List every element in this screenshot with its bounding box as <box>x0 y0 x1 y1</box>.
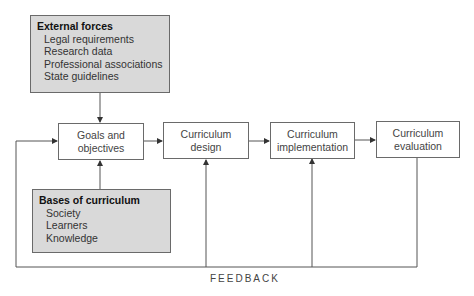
goals-and-objectives-box: Goals and objectives <box>58 123 144 160</box>
bases-item: Knowledge <box>39 232 164 245</box>
stage-label-line2: evaluation <box>394 140 442 152</box>
bases-item: Society <box>39 207 164 220</box>
bases-item: Learners <box>39 219 164 232</box>
curriculum-implementation-box: Curriculum implementation <box>270 122 355 159</box>
stage-label-line1: Goals and <box>77 129 125 141</box>
stage-label-line1: Curriculum <box>393 127 444 139</box>
stage-label-line2: objectives <box>78 142 125 154</box>
external-forces-box: External forces Legal requirements Resea… <box>30 15 170 93</box>
curriculum-design-box: Curriculum design <box>163 122 249 159</box>
curriculum-evaluation-box: Curriculum evaluation <box>376 121 460 158</box>
stage-label-line1: Curriculum <box>287 128 338 140</box>
external-forces-item: Legal requirements <box>37 33 163 46</box>
stage-label-line2: design <box>191 141 222 153</box>
external-forces-item: State guidelines <box>37 70 163 83</box>
stage-label-line2: implementation <box>277 141 348 153</box>
external-forces-item: Research data <box>37 45 163 58</box>
external-forces-title: External forces <box>37 20 163 33</box>
external-forces-item: Professional associations <box>37 58 163 71</box>
bases-of-curriculum-box: Bases of curriculum Society Learners Kno… <box>32 189 171 253</box>
stage-label-line1: Curriculum <box>181 128 232 140</box>
bases-of-curriculum-title: Bases of curriculum <box>39 194 164 207</box>
feedback-label: FEEDBACK <box>210 273 280 284</box>
